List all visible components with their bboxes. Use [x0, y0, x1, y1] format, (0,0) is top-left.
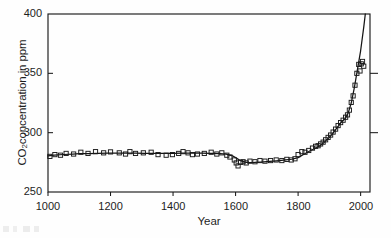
- data-line: [48, 14, 365, 163]
- co2-trend-line: [48, 14, 365, 163]
- co2-data-markers: [48, 59, 366, 168]
- axis-frame: [48, 14, 370, 192]
- plot-area: [0, 0, 391, 238]
- scan-artifact: [3, 226, 43, 232]
- figure-canvas: CO2concentration in ppm Year 400 350 300…: [0, 0, 391, 238]
- plot-frame: [48, 14, 370, 192]
